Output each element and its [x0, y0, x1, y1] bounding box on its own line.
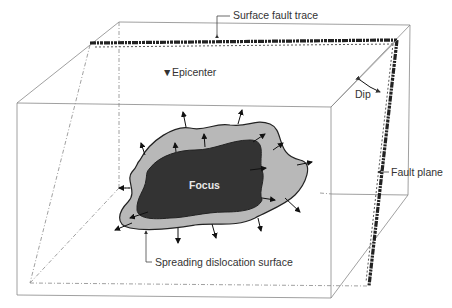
focus-label: Focus	[189, 179, 220, 191]
fault-surface-trace	[90, 40, 397, 47]
epicenter-marker-icon: ▼	[162, 66, 172, 78]
surface-fault-trace-label: Surface fault trace	[233, 9, 318, 21]
spreading-dislocation-surface-label: Spreading dislocation surface	[155, 256, 293, 268]
fault-plane-label: Fault plane	[391, 166, 443, 178]
dip-label: Dip	[355, 88, 371, 100]
epicenter-label: Epicenter	[172, 66, 217, 78]
fault-block-diagram: Focus ▼ Epicenter Surface fault trace Di…	[0, 0, 452, 308]
fault-plane	[331, 40, 397, 286]
